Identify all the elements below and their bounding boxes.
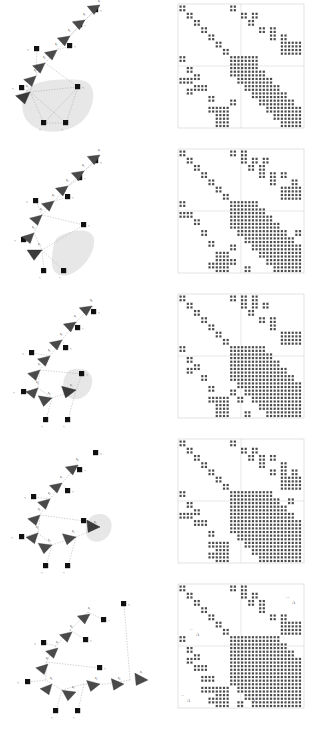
landmark-node[interactable] [79, 371, 84, 376]
landmark-node[interactable] [25, 679, 30, 684]
landmark-node[interactable] [97, 665, 102, 670]
matrix-cell [252, 654, 254, 656]
matrix-cell [248, 230, 250, 232]
landmark-node[interactable] [75, 708, 80, 713]
matrix-cell [270, 516, 272, 518]
pose-node[interactable] [49, 336, 65, 351]
matrix-cell [274, 506, 276, 508]
matrix-cell [255, 491, 257, 493]
matrix-cell [277, 361, 279, 363]
pose-node[interactable] [77, 610, 93, 625]
landmark-node[interactable] [65, 417, 70, 422]
matrix-cell [187, 89, 189, 91]
matrix-cell [230, 390, 232, 392]
landmark-node[interactable] [34, 46, 39, 51]
landmark-node[interactable] [31, 494, 36, 499]
landmark-node[interactable] [121, 601, 126, 606]
landmark-node[interactable] [81, 222, 86, 227]
landmark-node[interactable] [29, 350, 34, 355]
pose-node[interactable] [133, 673, 149, 687]
landmark-node[interactable] [19, 534, 24, 539]
matrix-cell [219, 477, 221, 479]
landmark-node[interactable] [41, 120, 46, 125]
matrix-cell [270, 255, 272, 257]
pose-node[interactable] [22, 229, 38, 245]
landmark-node[interactable] [43, 417, 48, 422]
pose-node[interactable] [44, 46, 60, 61]
landmark-node[interactable] [21, 389, 26, 394]
matrix-cell [237, 513, 239, 515]
landmark-node[interactable] [63, 120, 68, 125]
matrix-cell [237, 669, 239, 671]
pose-node[interactable] [41, 197, 57, 212]
pose-node[interactable] [59, 628, 75, 643]
matrix-cell [234, 441, 236, 443]
landmark-node[interactable] [65, 563, 70, 568]
landmark-label: l₈ [100, 161, 102, 164]
matrix-cell [255, 85, 257, 87]
pose-node[interactable] [62, 532, 76, 545]
landmark-node[interactable] [53, 708, 58, 713]
matrix-cell [263, 306, 265, 308]
pose-node[interactable] [111, 679, 124, 691]
landmark-node[interactable] [91, 309, 96, 314]
landmark-node[interactable] [41, 268, 46, 273]
landmark-node[interactable] [65, 194, 70, 199]
matrix-cell [219, 114, 221, 116]
landmark-node[interactable] [83, 637, 88, 642]
pose-label: x₇ [97, 0, 100, 3]
landmark-node[interactable] [75, 84, 80, 89]
matrix-cell [263, 223, 265, 225]
matrix-cell [212, 263, 214, 265]
landmark-node[interactable] [41, 640, 46, 645]
matrix-cell [237, 371, 239, 373]
matrix-cell [212, 473, 214, 475]
matrix-cell [223, 270, 225, 272]
pose-node[interactable] [26, 530, 42, 546]
landmark-node[interactable] [93, 450, 98, 455]
landmark-label: l₆ [70, 347, 72, 350]
landmark-node[interactable] [61, 268, 66, 273]
matrix-cell [259, 321, 261, 323]
matrix-cell [208, 100, 210, 102]
landmark-label: l₁ [59, 276, 61, 279]
pose-node[interactable] [87, 679, 101, 692]
landmark-node[interactable] [63, 345, 68, 350]
matrix-cell [277, 400, 279, 402]
landmark-node[interactable] [43, 563, 48, 568]
pose-node[interactable] [40, 681, 56, 697]
pose-node[interactable] [27, 245, 44, 261]
pose-node[interactable] [38, 540, 53, 554]
matrix-cell [245, 386, 247, 388]
matrix-cell [241, 361, 243, 363]
pose-node[interactable] [36, 660, 52, 676]
matrix-cell [292, 683, 294, 685]
landmark-node[interactable] [75, 325, 80, 330]
matrix-cell [252, 690, 254, 692]
matrix-cell [252, 368, 254, 370]
pose-node[interactable] [38, 393, 53, 407]
landmark-label: l₂ [61, 128, 63, 131]
matrix-cell [237, 74, 239, 76]
pose-node[interactable] [49, 479, 65, 494]
matrix-cell [216, 477, 218, 479]
matrix-cell [281, 560, 283, 562]
pose-node[interactable] [32, 59, 48, 74]
landmark-node[interactable] [65, 488, 70, 493]
landmark-node[interactable] [67, 43, 72, 48]
landmark-node[interactable] [101, 617, 106, 622]
landmark-node[interactable] [81, 518, 86, 523]
matrix-cell [292, 110, 294, 112]
matrix-cell [252, 640, 254, 642]
matrix-cell [205, 690, 207, 692]
landmark-node[interactable] [33, 198, 38, 203]
landmark-node[interactable] [19, 85, 24, 90]
matrix-cell [292, 498, 294, 500]
matrix-cell [292, 42, 294, 44]
matrix-cell [299, 658, 301, 660]
landmark-node[interactable] [77, 467, 82, 472]
matrix-cell [234, 375, 236, 377]
pose-graph-panel: l₁ l₂ l₃ l₄ l₅ l₆ l₇ l₈ x₁ x₂ x₃ x₄ x₅ x… [0, 0, 168, 145]
matrix-cell [248, 24, 250, 26]
matrix-cell [252, 676, 254, 678]
